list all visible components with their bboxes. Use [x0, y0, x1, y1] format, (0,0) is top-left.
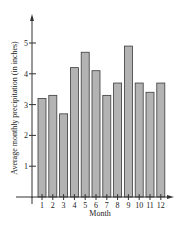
x-tick-label: 11: [146, 201, 154, 210]
x-axis-arrow-icon: [167, 195, 174, 199]
precipitation-bar-chart: 12345 123456789101112 Month Average mont…: [0, 0, 177, 225]
bar-month-3: [60, 114, 68, 197]
bar-month-6: [92, 71, 100, 197]
bar-month-8: [114, 83, 122, 197]
bar-month-10: [135, 83, 143, 197]
bar-month-4: [70, 68, 78, 197]
x-tick-label: 3: [62, 201, 66, 210]
x-tick-label: 5: [83, 201, 87, 210]
x-axis-label: Month: [89, 209, 110, 218]
x-tick-label: 12: [157, 201, 165, 210]
chart-canvas: 12345 123456789101112 Month Average mont…: [0, 0, 177, 225]
bar-month-12: [157, 83, 165, 197]
bar-month-1: [38, 98, 46, 197]
y-ticks-group: 12345: [24, 39, 36, 171]
bar-month-9: [124, 46, 132, 197]
y-axis-label: Average monthly precipitation (in inches…: [10, 41, 19, 175]
y-axis-arrow-icon: [30, 14, 34, 21]
x-tick-label: 2: [51, 201, 55, 210]
x-tick-label: 9: [126, 201, 130, 210]
x-tick-label: 4: [72, 201, 76, 210]
y-tick-label: 5: [24, 39, 28, 48]
y-tick-label: 1: [24, 162, 28, 171]
x-tick-label: 10: [135, 201, 143, 210]
x-tick-label: 8: [116, 201, 120, 210]
bar-month-11: [146, 92, 154, 197]
y-tick-label: 3: [24, 101, 28, 110]
bar-month-2: [49, 95, 57, 197]
y-tick-label: 4: [24, 70, 28, 79]
y-tick-label: 2: [24, 131, 28, 140]
bar-month-7: [103, 95, 111, 197]
bar-month-5: [81, 52, 89, 197]
x-tick-label: 1: [40, 201, 44, 210]
bars-group: [38, 46, 165, 197]
